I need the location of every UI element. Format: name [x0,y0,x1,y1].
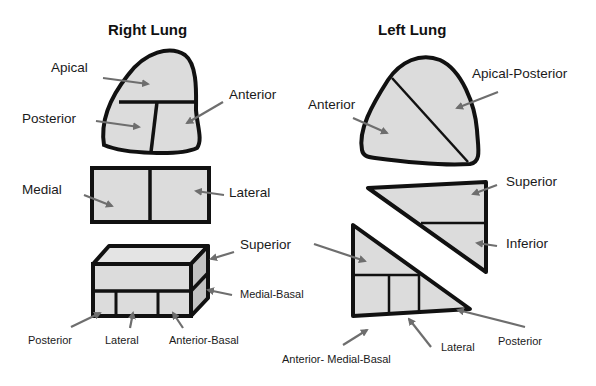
title-right-lung: Right Lung [108,22,187,37]
label-right-posterior-upper: Posterior [22,112,76,126]
label-right-lateral-middle: Lateral [229,186,270,200]
lung-segments-diagram [0,0,596,386]
label-right-lateral-basal: Lateral [105,335,139,346]
label-right-anterior-basal: Anterior-Basal [169,335,239,346]
label-right-superior: Superior [240,238,291,252]
title-left-lung: Left Lung [378,22,446,37]
right-lower-lobe-shape [93,246,208,316]
label-right-posterior-basal: Posterior [28,335,72,346]
label-left-apical-posterior: Apical-Posterior [472,67,567,81]
label-left-anterior: Anterior [308,98,355,112]
label-left-anterior-medial-basal: Anterior- Medial-Basal [282,354,391,365]
label-right-medial-basal: Medial-Basal [240,289,304,300]
label-left-lateral-basal: Lateral [441,342,475,353]
label-right-apical: Apical [51,61,88,75]
label-left-superior-lingula: Superior [506,175,557,189]
label-left-posterior-basal: Posterior [498,336,542,347]
right-upper-lobe-shape [103,51,199,153]
right-middle-lobe-shape [92,168,209,222]
label-right-anterior: Anterior [229,88,276,102]
left-upper-lobe-shape [361,57,478,164]
label-left-inferior-lingula: Inferior [506,237,548,251]
label-right-medial: Medial [22,183,62,197]
